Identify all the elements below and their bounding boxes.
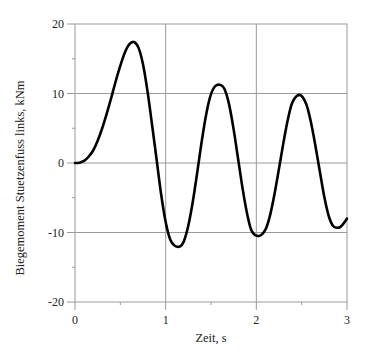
x-tick-label: 1 xyxy=(163,313,169,327)
y-tick-label: 20 xyxy=(52,17,64,31)
y-axis-ticks: 20100-10-20 xyxy=(48,17,75,309)
y-tick-label: 0 xyxy=(58,156,64,170)
x-axis-label: Zeit, s xyxy=(195,331,226,345)
y-tick-label: 10 xyxy=(52,87,64,101)
y-tick-label: -10 xyxy=(48,226,64,240)
chart-container: 20100-10-20 0123 Zeit, s Biegemoment Stu… xyxy=(0,0,365,363)
grid-lines xyxy=(75,24,347,302)
data-series-line xyxy=(75,42,347,247)
x-tick-label: 3 xyxy=(344,313,350,327)
y-tick-label: -20 xyxy=(48,295,64,309)
x-tick-label: 0 xyxy=(72,313,78,327)
y-axis-label: Biegemoment Stuetzenfuss links, kNm xyxy=(13,80,27,275)
minor-ticks xyxy=(72,59,302,305)
line-chart: 20100-10-20 0123 Zeit, s Biegemoment Stu… xyxy=(0,0,365,363)
x-tick-label: 2 xyxy=(253,313,259,327)
x-axis-ticks: 0123 xyxy=(72,302,350,327)
